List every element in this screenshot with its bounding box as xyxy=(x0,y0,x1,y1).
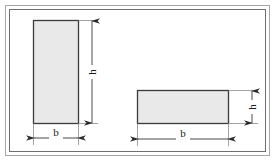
tall-height-label-group: h xyxy=(86,65,99,79)
wide-rectangle-shape xyxy=(138,91,229,124)
tall-rectangle-shape xyxy=(34,21,79,124)
figure-container: h b h b xyxy=(0,0,276,162)
tall-height-label: h xyxy=(86,69,98,75)
tall-width-label: b xyxy=(53,126,59,138)
wide-height-label: h xyxy=(246,104,258,110)
wide-height-label-group: h xyxy=(246,100,259,114)
wide-width-label: b xyxy=(180,127,186,139)
cross-section-diagram: h b h b xyxy=(0,0,276,162)
